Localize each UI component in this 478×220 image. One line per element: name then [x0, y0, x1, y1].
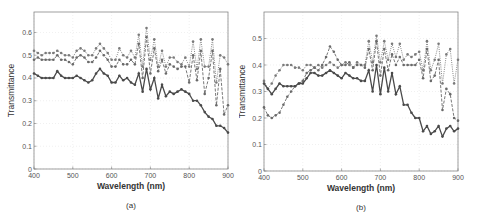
data-point-marker [367, 48, 370, 51]
data-point-marker [200, 38, 203, 41]
data-point-marker [203, 93, 206, 96]
data-point-marker [52, 58, 55, 61]
data-point-marker [399, 85, 402, 88]
data-point-marker [114, 58, 117, 61]
data-point-marker [130, 58, 133, 61]
data-point-marker [215, 104, 218, 107]
data-point-marker [441, 135, 444, 138]
data-point-marker [52, 52, 55, 55]
data-point-marker [348, 74, 351, 77]
data-point-marker [402, 64, 405, 67]
data-point-marker [207, 115, 210, 118]
plot-frame [34, 12, 228, 169]
data-point-marker [83, 79, 86, 82]
data-point-marker [103, 47, 106, 50]
data-point-marker [40, 58, 43, 61]
data-point-marker [364, 80, 367, 83]
data-point-marker [122, 63, 125, 66]
data-point-marker [169, 63, 172, 66]
chart-b: 40050060070080090000.10.20.30.40.5Wavele… [239, 0, 478, 220]
data-point-marker [391, 72, 394, 75]
data-point-marker [114, 65, 117, 68]
data-point-marker [196, 99, 199, 102]
x-tick-label: 400 [28, 172, 40, 179]
data-point-marker [207, 65, 210, 68]
data-point-marker [270, 82, 273, 85]
data-point-marker [270, 93, 273, 96]
data-point-marker [305, 72, 308, 75]
y-tick-label: 0.3 [22, 97, 32, 104]
data-point-marker [180, 63, 183, 66]
data-point-marker [83, 56, 86, 59]
data-point-marker [75, 49, 78, 52]
data-point-marker [60, 74, 63, 77]
data-point-marker [344, 64, 347, 67]
series-line-solid [264, 65, 458, 137]
data-point-marker [395, 93, 398, 96]
data-point-marker [410, 111, 413, 114]
data-point-marker [317, 69, 320, 72]
data-point-marker [219, 54, 222, 57]
data-point-marker [406, 64, 409, 67]
data-point-marker [137, 33, 140, 36]
data-point-marker [302, 82, 305, 85]
data-point-marker [165, 65, 168, 68]
x-tick-label: 700 [375, 174, 387, 181]
data-point-marker [364, 66, 367, 69]
data-point-marker [449, 93, 452, 96]
data-point-marker [110, 58, 113, 61]
data-point-marker [200, 49, 203, 52]
data-point-marker [298, 82, 301, 85]
data-point-marker [227, 131, 230, 134]
data-point-marker [348, 61, 351, 64]
data-point-marker [371, 69, 374, 72]
data-point-marker [395, 64, 398, 67]
data-point-marker [130, 81, 133, 84]
data-point-marker [56, 49, 59, 52]
data-point-marker [309, 69, 312, 72]
data-point-marker [176, 68, 179, 71]
y-tick-label: 0.5 [252, 35, 262, 42]
data-point-marker [313, 66, 316, 69]
data-point-marker [219, 124, 222, 127]
data-point-marker [286, 96, 289, 99]
data-point-marker [223, 127, 226, 130]
data-point-marker [126, 63, 129, 66]
data-point-marker [33, 49, 36, 52]
data-point-marker [165, 72, 168, 75]
data-point-marker [200, 104, 203, 107]
data-point-marker [37, 56, 40, 59]
data-point-marker [329, 61, 332, 64]
data-point-marker [457, 127, 460, 130]
data-point-marker [282, 103, 285, 106]
data-point-marker [145, 68, 148, 71]
data-point-marker [172, 93, 175, 96]
data-point-marker [418, 50, 421, 53]
x-tick-label: 400 [258, 174, 270, 181]
data-point-marker [270, 117, 273, 120]
data-point-marker [274, 88, 277, 91]
data-point-marker [336, 66, 339, 69]
data-point-marker [367, 40, 370, 43]
data-point-marker [188, 93, 191, 96]
data-point-marker [145, 27, 148, 30]
data-point-marker [445, 53, 448, 56]
data-point-marker [79, 77, 82, 80]
data-point-marker [422, 130, 425, 133]
data-point-marker [95, 72, 98, 75]
data-point-marker [309, 64, 312, 67]
plot-frame [264, 12, 458, 171]
data-point-marker [414, 53, 417, 56]
y-tick-label: 0.6 [22, 29, 32, 36]
data-point-marker [60, 52, 63, 55]
data-point-marker [37, 74, 40, 77]
data-point-marker [176, 90, 179, 93]
data-point-marker [329, 45, 332, 48]
data-point-marker [219, 68, 222, 71]
data-point-marker [371, 90, 374, 93]
data-point-marker [294, 66, 297, 69]
data-point-marker [56, 70, 59, 73]
chart-panel-b: 40050060070080090000.10.20.30.40.5Wavele… [239, 0, 478, 220]
data-point-marker [395, 56, 398, 59]
data-point-marker [126, 56, 129, 59]
